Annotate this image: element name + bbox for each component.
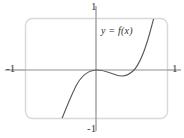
x-axis-right-tick-label: 1 [172, 63, 178, 74]
function-graph-figure: 1 -1 -1 1 y = f(x) [0, 0, 184, 138]
plot-canvas [0, 0, 184, 138]
y-axis-top-tick-label: 1 [91, 1, 97, 12]
function-equation-label: y = f(x) [101, 25, 133, 36]
y-axis-bottom-tick-label: -1 [87, 123, 96, 134]
x-axis-left-tick-label: -1 [6, 63, 15, 74]
